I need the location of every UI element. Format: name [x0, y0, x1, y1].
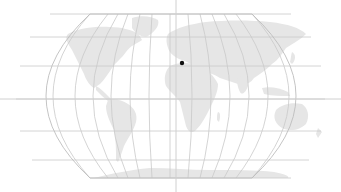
- landmass-japan: [290, 52, 295, 64]
- landmass-southeast-asia: [262, 87, 290, 96]
- landmass-australia: [274, 103, 308, 130]
- landmass-madagascar: [217, 112, 220, 122]
- landmass-new-zealand: [316, 128, 322, 138]
- world-map[interactable]: [0, 0, 341, 192]
- location-marker[interactable]: [180, 61, 184, 65]
